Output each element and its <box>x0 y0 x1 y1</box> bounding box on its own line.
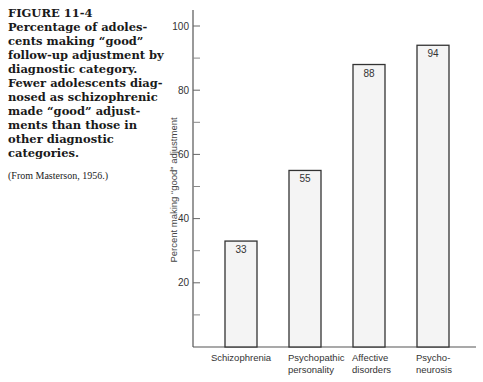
y-tick-label: 100 <box>172 21 189 32</box>
y-tick-label: 20 <box>178 277 190 288</box>
category-label: disorders <box>352 364 391 375</box>
bar <box>417 45 449 347</box>
category-label: Affective <box>352 352 388 363</box>
bar-value-label: 94 <box>427 48 439 59</box>
bar-value-label: 55 <box>299 173 311 184</box>
bar <box>225 241 257 347</box>
category-label: Psycho- <box>416 352 450 363</box>
y-tick-label: 80 <box>178 85 190 96</box>
bar-value-label: 33 <box>235 244 247 255</box>
y-tick-label: 40 <box>178 213 190 224</box>
y-axis-label: Percent making “good” adjustment <box>168 117 179 263</box>
category-label: personality <box>288 364 334 375</box>
bar-value-label: 88 <box>363 68 375 79</box>
bar-chart: 20406080100 33558894 SchizophreniaPsycho… <box>0 0 483 382</box>
bar <box>289 170 321 347</box>
chart-bars: 33558894 <box>225 45 449 347</box>
category-label: Schizophrenia <box>211 352 272 363</box>
bar <box>353 65 385 347</box>
category-label: neurosis <box>416 364 452 375</box>
category-label: Psychopathic <box>288 352 345 363</box>
category-labels: SchizophreniaPsychopathicpersonalityAffe… <box>211 352 452 375</box>
y-tick-label: 60 <box>178 149 190 160</box>
